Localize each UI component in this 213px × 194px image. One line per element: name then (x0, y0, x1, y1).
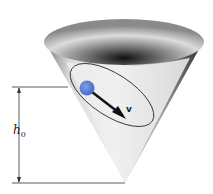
height-subscript: 0 (21, 130, 26, 139)
cone-diagram (0, 0, 213, 194)
height-symbol: h (13, 123, 21, 137)
height-label: h0 (13, 123, 26, 139)
velocity-label: v (126, 104, 132, 114)
cone-rim (44, 19, 204, 65)
arrowhead-up-icon (17, 87, 21, 93)
cone-inner-surface (66, 58, 190, 183)
ball (80, 81, 95, 96)
arrowhead-down-icon (17, 177, 21, 183)
